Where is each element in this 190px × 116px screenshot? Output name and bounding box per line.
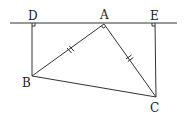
segment-ab xyxy=(32,24,104,76)
label-b: B xyxy=(22,76,31,90)
label-c: C xyxy=(150,101,159,115)
label-e: E xyxy=(150,9,159,23)
tick-marks-ab xyxy=(67,46,74,53)
label-a: A xyxy=(99,8,109,22)
label-d: D xyxy=(28,9,38,23)
segment-ec xyxy=(155,23,156,97)
geometry-diagram: D A E B C xyxy=(0,0,190,116)
segment-bc xyxy=(32,76,156,97)
